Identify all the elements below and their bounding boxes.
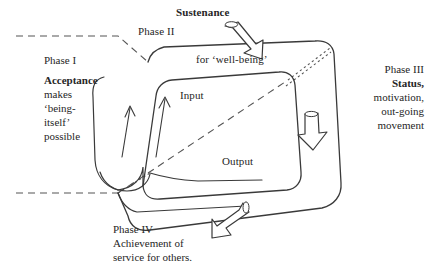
phase-three-text-block: Phase III Status, motivation, out-going … [306,62,424,132]
phase-three-line-4: movement [306,118,424,132]
phase-four-label: Phase IV [113,222,192,236]
phase-three-keyword: Status, [306,76,424,90]
phase-two-heading: Sustenance [176,6,230,20]
phase-one-line-3: ‘being- [44,101,98,115]
phase-one-line-5: possible [44,129,98,143]
phase-three-label: Phase III [306,62,424,76]
phase-one-line-4: itself’ [44,115,98,129]
input-flow-arrows [122,97,170,157]
bottom-left-tail-outer [118,193,246,212]
bottom-left-tail-inner [150,173,262,181]
phase-three-line-3: out-going [306,104,424,118]
thin-arrow-up-icon-right [156,97,170,157]
phase-one-text-block: Phase I Acceptance makes ‘being- itself’… [44,53,98,143]
phase-one-keyword: Acceptance [44,73,98,87]
phase-four-keyword-tail: of [172,237,184,249]
output-label: Output [222,155,253,169]
phases-diagram: Phase I Acceptance makes ‘being- itself’… [0,0,432,275]
phase-four-line-2: service for others. [113,250,192,264]
thin-arrow-up-icon-left [122,106,135,157]
input-label: Input [180,89,204,103]
phase-two-subtitle: for ‘well-being’ [196,53,268,67]
phase-three-line-2: motivation, [306,90,424,104]
phase-one-label: Phase I [44,53,98,67]
left-inner-fold [118,167,143,190]
phase-four-text-block: Phase IV Achievement of service for othe… [113,222,192,264]
phase-two-label: Phase II [138,25,175,39]
phase-four-line-1: Achievement of [113,236,192,250]
phase-four-keyword: Achievement [113,237,172,249]
left-fold-curves [93,77,262,212]
phase-one-line-2: makes [44,87,98,101]
